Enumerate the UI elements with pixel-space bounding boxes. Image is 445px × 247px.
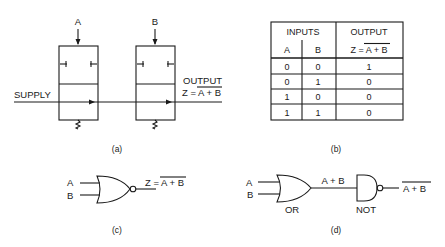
flow-arrow-icon [89,100,95,105]
cell-a: 0 [284,62,289,72]
cell-z: 0 [366,92,371,102]
nor-gate-icon [97,176,130,203]
panel-c-nor-gate: A B Z = A + B (c) [67,176,186,235]
caption-c: (c) [112,225,122,235]
valve-a-label: A [75,16,82,27]
cell-b: 1 [315,77,320,87]
cell-a: 0 [284,77,289,87]
header-col-b: B [315,45,321,55]
header-col-z: Z = A + B [350,45,387,55]
expr-overlined: A + B [198,87,221,98]
output-label: OUTPUT [183,75,222,86]
valve-a: A [59,16,98,129]
header-output: OUTPUT [351,27,389,37]
caption-b: (b) [331,144,342,154]
caption-d: (d) [331,225,342,235]
arrow-head-icon [153,39,158,45]
not-gate-icon [357,175,377,201]
valve-b-label: B [152,16,158,27]
spring-icon [153,120,157,129]
inversion-bubble-icon [377,185,383,191]
inversion-bubble-icon [130,186,136,192]
or-gate-icon [277,175,311,202]
caption-a: (a) [112,144,123,154]
supply-label: SUPPLY [14,89,51,100]
final-output-expression: A + B [403,183,426,194]
input-a-label: A [246,177,253,188]
expr-prefix: Z = [182,87,198,98]
expr-overlined: A + B [366,45,388,55]
table-row: 0 1 0 [284,77,371,87]
expr-prefix: Z = [350,45,365,55]
flow-arrow-icon [166,100,172,105]
panel-d-or-not-gates: A B OR A + B NOT A + B (d) [246,175,431,235]
table-row: 0 0 1 [284,62,371,72]
arrow-head-icon [76,39,81,45]
logic-figure: A B SUP [0,0,445,247]
valve-b-body [136,46,175,120]
cell-z: 0 [366,77,371,87]
input-b-label: B [247,189,253,200]
header-col-a: A [284,45,290,55]
panel-a-valve-circuit: A B SUP [14,16,222,154]
expr-prefix: Z = [145,177,161,188]
input-b-label: B [67,190,73,201]
cell-z: 1 [366,62,371,72]
cell-a: 1 [284,92,289,102]
nor-output-expression: Z = A + B [145,177,184,188]
valve-b: B [136,16,175,129]
not-label: NOT [356,204,376,215]
table-row: 1 1 0 [284,108,371,118]
cell-a: 1 [284,108,289,118]
panel-b-truth-table: INPUTS OUTPUT A B Z = A + B 0 0 1 0 1 0 … [271,22,403,154]
intermediate-label: A + B [322,175,345,186]
cell-z: 0 [366,108,371,118]
header-inputs: INPUTS [286,27,319,37]
spring-icon [76,120,80,129]
input-a-label: A [67,177,74,188]
cell-b: 0 [315,92,320,102]
valve-a-body [59,46,98,120]
or-label: OR [285,204,299,215]
table-row: 1 0 0 [284,92,371,102]
cell-b: 0 [315,62,320,72]
cell-b: 1 [315,108,320,118]
output-expression: Z = A + B [182,87,221,98]
expr-overlined: A + B [161,177,184,188]
